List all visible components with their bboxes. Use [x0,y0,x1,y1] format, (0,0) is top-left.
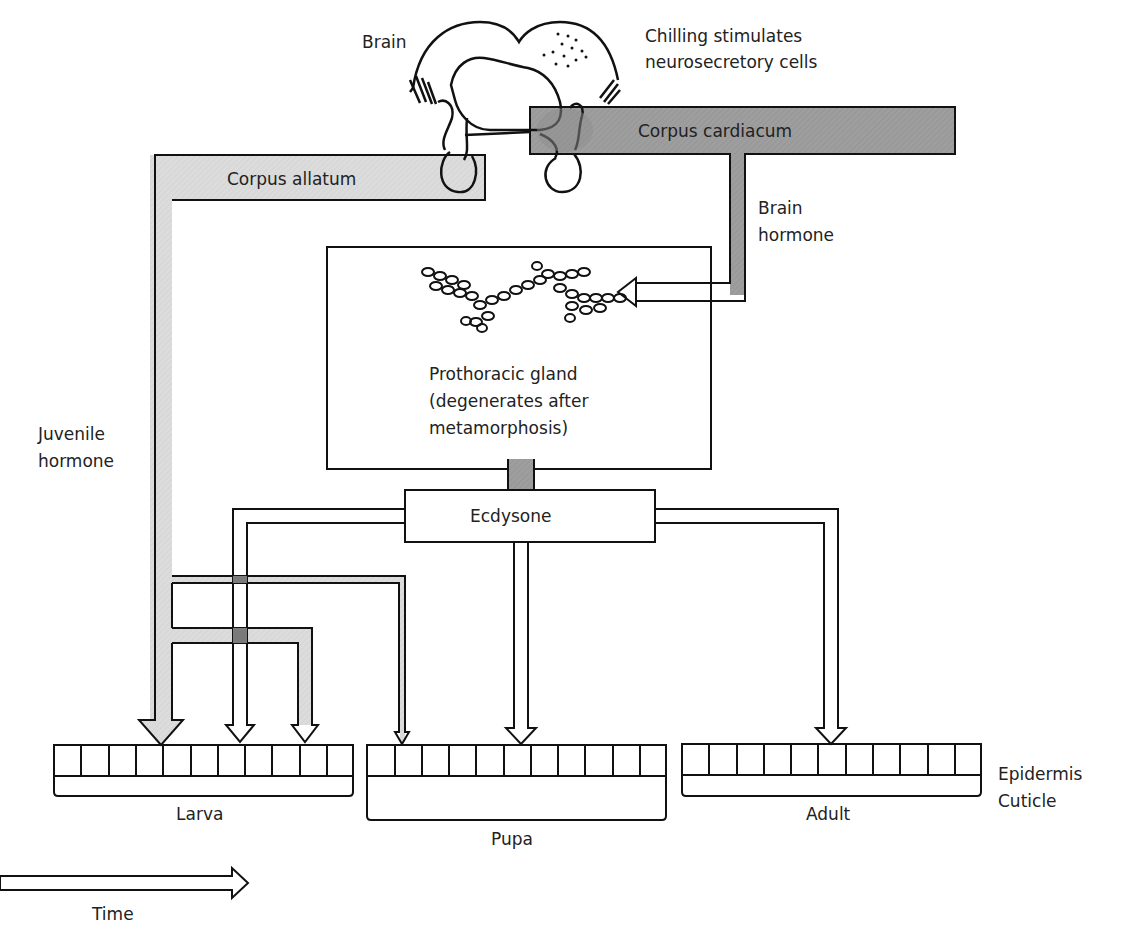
juvenile-hormone-branches [172,576,409,744]
overlap-mark [233,576,247,583]
right-arrow-icon [0,868,248,898]
juvenile-hormone-label-line1: Juvenile [37,424,105,444]
larva-epidermis [54,745,353,796]
insect-metamorphosis-hormone-diagram: Brain Chilling stimulates neurosecretory… [0,0,1127,948]
larva-label: Larva [176,804,223,824]
overlap-mark [233,628,247,643]
brain-hormone-label-line2: hormone [758,225,834,245]
adult-epidermis [682,744,981,796]
ecdysone-block [226,459,846,744]
brain-label: Brain [362,32,407,52]
pupa-label: Pupa [491,829,533,849]
juvenile-hormone-label-line2: hormone [38,451,114,471]
ecdysone-label: Ecdysone [470,506,551,526]
chilling-label-line1: Chilling stimulates [645,26,802,46]
prothoracic-gland-label-line1: Prothoracic gland [429,364,578,384]
epidermis-label: Epidermis [998,764,1082,784]
corpus-allatum-label: Corpus allatum [227,169,356,189]
time-label: Time [91,904,134,924]
corpus-cardiacum-gland [537,108,593,152]
brain-hormone-label-line1: Brain [758,198,803,218]
cuticle-label: Cuticle [998,791,1057,811]
pupa-epidermis [367,745,666,820]
prothoracic-gland-label-line3: metamorphosis) [429,418,568,438]
chilling-label-line2: neurosecretory cells [645,52,818,72]
adult-label: Adult [806,804,851,824]
prothoracic-gland-label-line2: (degenerates after [429,391,588,411]
corpus-cardiacum-label: Corpus cardiacum [638,121,792,141]
prothoracic-gland-cells-icon [422,262,626,332]
